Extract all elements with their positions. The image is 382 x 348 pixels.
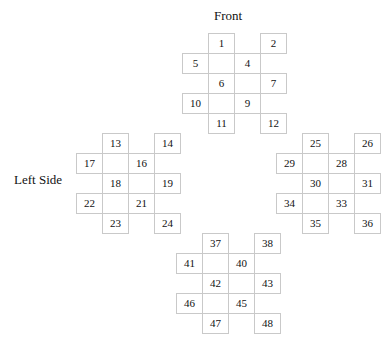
left-side-label: Left Side [14, 173, 62, 187]
cluster-right-side: 252627282930313233343536 [276, 133, 382, 237]
cluster-left-side: 131415161718192021222324 [76, 133, 184, 237]
grid-cell: 6 [208, 73, 235, 94]
grid-cell: 5 [182, 53, 209, 74]
grid-cell: 12 [260, 113, 287, 134]
grid-cell: 30 [302, 173, 329, 194]
grid-cell: 26 [354, 133, 381, 154]
grid-cell: 13 [102, 133, 129, 154]
grid-cell: 40 [228, 253, 255, 274]
grid-cell: 36 [354, 213, 381, 234]
grid-cell: 31 [354, 173, 381, 194]
grid-cell: 41 [176, 253, 203, 274]
diagram-canvas: Front Left Side 123456789101112 13141516… [0, 0, 382, 348]
grid-cell: 21 [128, 193, 155, 214]
grid-cell: 46 [176, 293, 203, 314]
grid-cell: 19 [154, 173, 181, 194]
grid-cell: 7 [260, 73, 287, 94]
grid-cell: 47 [202, 313, 229, 334]
grid-cell: 35 [302, 213, 329, 234]
grid-cell: 43 [254, 273, 281, 294]
grid-cell: 4 [234, 53, 261, 74]
grid-cell: 11 [208, 113, 235, 134]
grid-cell: 22 [76, 193, 103, 214]
front-label: Front [214, 9, 242, 23]
cluster-front: 123456789101112 [182, 33, 290, 137]
cluster-bottom: 373839404142434445464748 [176, 233, 284, 337]
grid-cell: 34 [276, 193, 303, 214]
grid-cell: 14 [154, 133, 181, 154]
grid-cell: 45 [228, 293, 255, 314]
grid-cell: 28 [328, 153, 355, 174]
grid-cell: 16 [128, 153, 155, 174]
grid-cell: 37 [202, 233, 229, 254]
grid-cell: 1 [208, 33, 235, 54]
grid-cell: 42 [202, 273, 229, 294]
grid-cell: 48 [254, 313, 281, 334]
grid-cell: 38 [254, 233, 281, 254]
grid-cell: 33 [328, 193, 355, 214]
grid-cell: 17 [76, 153, 103, 174]
grid-cell: 23 [102, 213, 129, 234]
grid-cell: 9 [234, 93, 261, 114]
grid-cell: 25 [302, 133, 329, 154]
grid-cell: 29 [276, 153, 303, 174]
grid-cell: 24 [154, 213, 181, 234]
grid-cell: 2 [260, 33, 287, 54]
grid-cell: 10 [182, 93, 209, 114]
grid-cell: 18 [102, 173, 129, 194]
